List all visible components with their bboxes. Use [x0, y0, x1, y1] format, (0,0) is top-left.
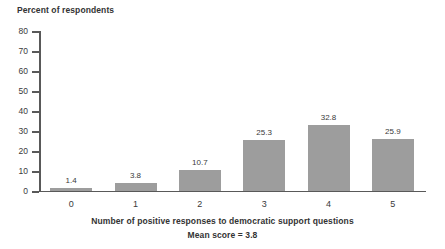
bar-chart: Percent of respondents 01020304050607080…	[0, 0, 445, 249]
plot-area: 01020304050607080 1.403.8110.7225.3332.8…	[39, 31, 425, 191]
bar[interactable]	[308, 125, 350, 191]
mean-score-annotation: Mean score = 3.8	[0, 230, 445, 240]
y-axis-tick-mark	[32, 71, 39, 73]
y-axis-tick-mark	[32, 171, 39, 173]
bar-value-label: 25.3	[256, 128, 272, 137]
y-axis-tick-mark	[32, 31, 39, 33]
bar-group[interactable]: 25.33	[243, 31, 285, 191]
chart-caption: Number of positive responses to democrat…	[0, 216, 445, 240]
bar[interactable]	[50, 188, 92, 191]
y-axis-tick-mark	[32, 131, 39, 133]
bar-group[interactable]: 25.95	[372, 31, 414, 191]
y-axis-tick-label: 70	[19, 46, 28, 56]
bar-value-label: 25.9	[385, 127, 401, 136]
y-axis-tick-mark	[32, 91, 39, 93]
y-axis-tick-label: 40	[19, 106, 28, 116]
bar-value-label: 10.7	[192, 158, 208, 167]
y-axis-title: Percent of respondents	[17, 5, 114, 15]
bar[interactable]	[115, 183, 157, 191]
x-axis-tick-label: 0	[69, 199, 74, 209]
x-axis-tick-label: 4	[326, 199, 331, 209]
bar-value-label: 1.4	[66, 176, 77, 185]
y-axis-tick-label: 10	[19, 166, 28, 176]
y-axis-tick-label: 0	[23, 186, 28, 196]
bar-value-label: 32.8	[321, 113, 337, 122]
bar-group[interactable]: 3.81	[115, 31, 157, 191]
y-axis-tick-label: 80	[19, 26, 28, 36]
bar-group[interactable]: 32.84	[308, 31, 350, 191]
x-axis-tick-label: 3	[262, 199, 267, 209]
y-axis-tick-mark	[32, 191, 39, 193]
y-axis-tick-label: 60	[19, 66, 28, 76]
x-axis-title: Number of positive responses to democrat…	[0, 216, 445, 226]
y-axis-tick-mark	[32, 151, 39, 153]
bar[interactable]	[372, 139, 414, 191]
bar[interactable]	[179, 170, 221, 191]
x-axis-tick-label: 5	[390, 199, 395, 209]
bar-group[interactable]: 10.72	[179, 31, 221, 191]
bar-group[interactable]: 1.40	[50, 31, 92, 191]
bar[interactable]	[243, 140, 285, 191]
bar-value-label: 3.8	[130, 171, 141, 180]
y-axis-tick-label: 20	[19, 146, 28, 156]
y-axis-tick-mark	[32, 111, 39, 113]
y-axis-tick-label: 50	[19, 86, 28, 96]
x-axis-tick-label: 2	[197, 199, 202, 209]
y-axis-tick-mark	[32, 51, 39, 53]
y-axis-tick-label: 30	[19, 126, 28, 136]
x-axis-tick-label: 1	[133, 199, 138, 209]
